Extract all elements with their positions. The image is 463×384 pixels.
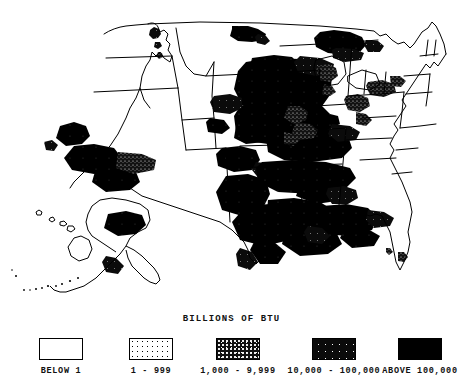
- border-ny-ct-nj: [426, 74, 430, 106]
- legend-swatch-10000-100000: [312, 338, 356, 360]
- alaska-panhandle: [126, 246, 160, 284]
- border-vt-nh: [420, 54, 438, 56]
- legend-item-0[interactable]: BELOW 1: [18, 338, 104, 376]
- legend-label-below-1: BELOW 1: [18, 366, 104, 376]
- alaska-outline: [50, 198, 150, 292]
- border-az-nm-north: [186, 148, 226, 150]
- border-va-nc: [400, 124, 436, 128]
- alaska-inset: [11, 198, 160, 292]
- aleutian-islands: [11, 269, 79, 291]
- cluster-montana: [230, 26, 270, 45]
- cluster-appalachia: [344, 76, 406, 126]
- cluster-arkansas: [326, 186, 358, 204]
- hawaii-big-island: [68, 236, 92, 261]
- legend-label-1000-9999: 1,000 - 9,999: [192, 366, 284, 376]
- border-mt-nd: [280, 44, 320, 46]
- border-wa-id-or: [172, 56, 178, 88]
- border-nc-sc: [396, 148, 418, 150]
- hawaii-molokai: [60, 221, 67, 226]
- cluster-north-dakota: [314, 30, 384, 62]
- us-county-choropleth-map: [0, 0, 463, 300]
- cluster-california: [44, 122, 156, 192]
- hawaii-oahu: [49, 217, 55, 222]
- great-lakes-erie-huron: [348, 70, 380, 90]
- legend-label-1-999: 1 - 999: [108, 366, 194, 376]
- hawaii-kauai: [36, 210, 42, 215]
- border-ga-fl: [392, 172, 412, 174]
- hawaii-maui: [67, 226, 75, 232]
- legend-swatch-below-1: [39, 338, 83, 360]
- border-pa-ny: [404, 74, 430, 76]
- border-ca-nv-az: [178, 88, 186, 150]
- legend-label-10000-100000: 10,000 - 100,000: [282, 366, 386, 376]
- map-area: [0, 0, 463, 300]
- legend-swatch-above-100000: [398, 338, 442, 360]
- border-or-id: [140, 88, 150, 108]
- border-nh-me: [434, 40, 436, 56]
- legend-item-4[interactable]: ABOVE 100,000: [378, 338, 462, 376]
- legend-item-3[interactable]: 10,000 - 100,000: [282, 338, 386, 376]
- legend-swatch-1-999: [129, 338, 173, 360]
- border-vt-ny: [426, 40, 428, 56]
- border-or-ca: [94, 88, 178, 92]
- legend-title: BILLIONS OF BTU: [0, 314, 463, 324]
- border-idaho: [176, 28, 214, 76]
- cluster-alaska: [102, 211, 146, 274]
- legend-item-1[interactable]: 1 - 999: [108, 338, 194, 376]
- map-legend: BILLIONS OF BTU BELOW 1 1 - 999 1,000 - …: [0, 300, 463, 384]
- legend-label-above-100000: ABOVE 100,000: [378, 366, 462, 376]
- legend-swatch-1000-9999: [216, 338, 260, 360]
- legend-item-2[interactable]: 1,000 - 9,999: [192, 338, 284, 376]
- border-il-wi: [364, 70, 366, 94]
- hawaii-inset: [36, 210, 92, 261]
- figure-root: BILLIONS OF BTU BELOW 1 1 - 999 1,000 - …: [0, 0, 463, 384]
- northern-border: [148, 22, 446, 54]
